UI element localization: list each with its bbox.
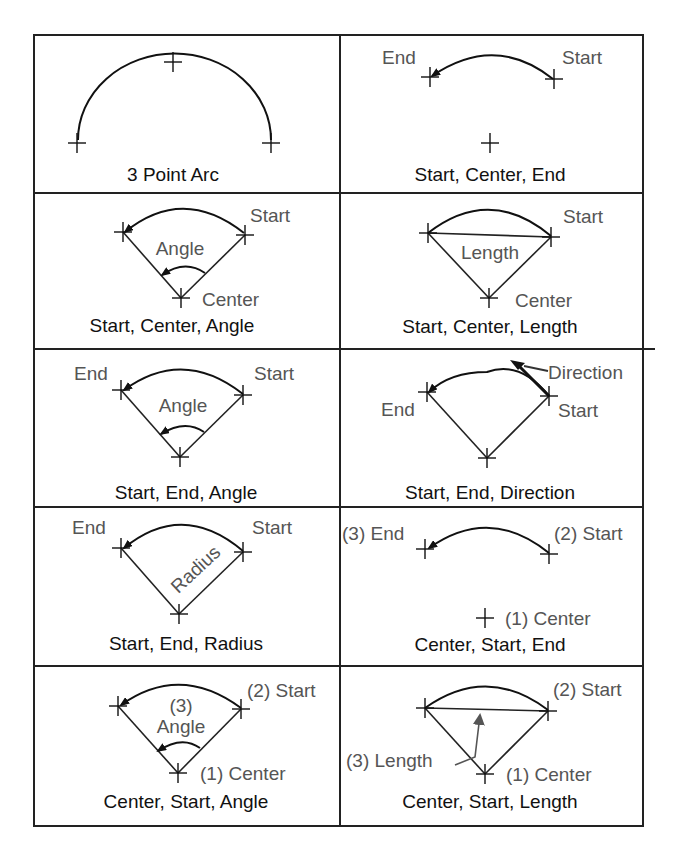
svg-text:(3) End: (3) End <box>342 523 404 544</box>
svg-text:(1) Center: (1) Center <box>200 763 286 784</box>
cell-caption: Center, Start, End <box>414 634 565 655</box>
svg-text:Angle: Angle <box>159 395 208 416</box>
cell-start-center-end: End Start Start, Center, End <box>382 47 603 185</box>
cell-caption: 3 Point Arc <box>127 164 219 185</box>
cell-caption: Center, Start, Angle <box>104 791 269 812</box>
svg-text:Angle: Angle <box>156 238 205 259</box>
svg-text:Center: Center <box>202 289 260 310</box>
svg-text:End: End <box>72 517 106 538</box>
svg-text:End: End <box>381 399 415 420</box>
cell-caption: Start, End, Direction <box>405 482 575 503</box>
cell-start-end-angle: End Start Angle Start, End, Angle <box>74 363 295 503</box>
svg-text:(2) Start: (2) Start <box>553 679 622 700</box>
cell-start-center-angle: Start Angle Center Start, Center, Angle <box>90 205 291 336</box>
svg-text:(2) Start: (2) Start <box>247 680 316 701</box>
svg-text:Length: Length <box>461 242 519 263</box>
svg-text:(3) Length: (3) Length <box>346 750 433 771</box>
svg-text:(2) Start: (2) Start <box>554 523 623 544</box>
svg-text:End: End <box>74 363 108 384</box>
cell-caption: Start, Center, Angle <box>90 315 255 336</box>
svg-text:Start: Start <box>563 206 604 227</box>
svg-text:Center: Center <box>515 290 573 311</box>
point-marker-icon <box>68 133 86 153</box>
arc-icon <box>78 54 271 140</box>
point-marker-icon <box>262 133 280 153</box>
cell-caption: Start, Center, Length <box>402 316 577 337</box>
svg-text:Start: Start <box>252 517 293 538</box>
cell-center-start-angle: (2) Start (3) Angle (1) Center Center, S… <box>104 680 317 812</box>
arc-methods-diagram: 3 Point Arc End Start Start, Center, End… <box>0 0 673 856</box>
point-marker-icon <box>164 52 182 72</box>
svg-text:(1) Center: (1) Center <box>506 764 592 785</box>
svg-text:Angle: Angle <box>157 716 206 737</box>
svg-text:Radius: Radius <box>167 541 225 597</box>
cell-center-start-end: (3) End (2) Start (1) Center Center, Sta… <box>342 523 623 655</box>
cell-caption: Start, Center, End <box>414 164 565 185</box>
svg-text:End: End <box>382 47 416 68</box>
svg-text:Start: Start <box>558 400 599 421</box>
cell-caption: Center, Start, Length <box>402 791 577 812</box>
svg-text:(3): (3) <box>169 695 192 716</box>
cell-center-start-length: (2) Start (3) Length (1) Center Center, … <box>346 679 622 812</box>
svg-text:Start: Start <box>254 363 295 384</box>
svg-text:Start: Start <box>562 47 603 68</box>
cell-three-point-arc: 3 Point Arc <box>68 52 280 185</box>
cell-start-end-direction: Direction End Start Start, End, Directio… <box>381 360 623 503</box>
svg-text:(1) Center: (1) Center <box>505 608 591 629</box>
table-grid <box>34 35 655 826</box>
cell-caption: Start, End, Angle <box>115 482 258 503</box>
svg-text:Direction: Direction <box>548 362 623 383</box>
cell-caption: Start, End, Radius <box>109 633 263 654</box>
cell-start-center-length: Start Length Center Start, Center, Lengt… <box>402 206 604 337</box>
cell-start-end-radius: End Start Radius Start, End, Radius <box>72 517 293 654</box>
svg-text:Start: Start <box>250 205 291 226</box>
